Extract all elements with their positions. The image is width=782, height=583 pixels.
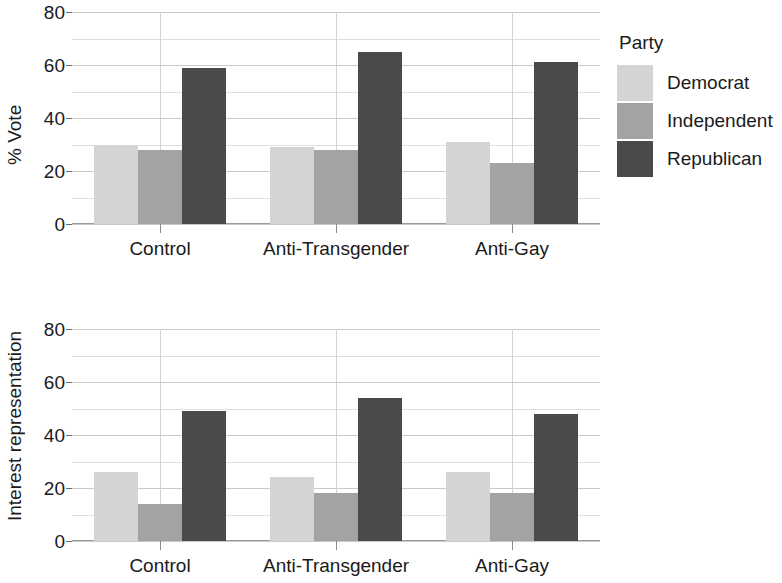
y-tick-label: 80 — [44, 3, 65, 22]
y-tick-mark — [66, 435, 72, 436]
y-tick-label: 40 — [44, 426, 65, 445]
y-tick-label: 0 — [54, 215, 65, 234]
y-tick-label: 0 — [54, 532, 65, 551]
bar-independent-anti-transgender[interactable] — [314, 493, 358, 541]
panel-percent-vote: % Vote 020406080ControlAnti-TransgenderA… — [0, 0, 782, 290]
x-tick-label: Anti-Transgender — [263, 238, 409, 260]
y-tick-mark — [66, 541, 72, 542]
y-tick-label: 20 — [44, 162, 65, 181]
plot-area-vote: 020406080ControlAnti-TransgenderAnti-Gay — [72, 12, 600, 224]
y-axis-title-interest: Interest representation — [4, 331, 26, 521]
legend-swatch-democrat — [617, 65, 653, 101]
bar-independent-control[interactable] — [138, 504, 182, 541]
x-tick-label: Anti-Transgender — [263, 555, 409, 577]
x-tick-mark — [160, 224, 161, 233]
y-tick-mark — [66, 12, 72, 13]
bar-republican-anti-gay[interactable] — [534, 414, 578, 541]
y-tick-label: 40 — [44, 109, 65, 128]
x-tick-mark — [512, 541, 513, 550]
legend-item-republican[interactable]: Republican — [617, 140, 773, 178]
bar-democrat-control[interactable] — [94, 145, 138, 225]
bar-independent-anti-gay[interactable] — [490, 163, 534, 224]
legend-swatch-independent — [617, 103, 653, 139]
x-tick-mark — [160, 541, 161, 550]
plot-area-interest: 020406080ControlAnti-TransgenderAnti-Gay — [72, 329, 600, 541]
bar-independent-anti-gay[interactable] — [490, 493, 534, 541]
x-tick-label: Control — [129, 555, 190, 577]
legend-item-independent[interactable]: Independent — [617, 102, 773, 140]
x-tick-mark — [512, 224, 513, 233]
legend-label-democrat: Democrat — [667, 72, 749, 94]
bar-republican-anti-transgender[interactable] — [358, 398, 402, 541]
y-tick-label: 80 — [44, 320, 65, 339]
x-tick-label: Anti-Gay — [475, 238, 549, 260]
x-tick-label: Control — [129, 238, 190, 260]
y-tick-label: 60 — [44, 373, 65, 392]
bar-democrat-control[interactable] — [94, 472, 138, 541]
x-tick-mark — [336, 541, 337, 550]
bar-democrat-anti-transgender[interactable] — [270, 147, 314, 224]
legend-party-vote: Party Democrat Independent Republican — [617, 32, 773, 178]
bar-republican-control[interactable] — [182, 68, 226, 224]
bar-independent-control[interactable] — [138, 150, 182, 224]
y-tick-mark — [66, 382, 72, 383]
bar-democrat-anti-gay[interactable] — [446, 472, 490, 541]
y-tick-mark — [66, 65, 72, 66]
panel-interest-representation: Interest representation 020406080Control… — [0, 293, 782, 583]
figure-two-panel-bar-charts: % Vote 020406080ControlAnti-TransgenderA… — [0, 0, 782, 583]
bar-democrat-anti-gay[interactable] — [446, 142, 490, 224]
bar-democrat-anti-transgender[interactable] — [270, 477, 314, 541]
y-tick-mark — [66, 171, 72, 172]
bar-republican-anti-gay[interactable] — [534, 62, 578, 224]
y-tick-mark — [66, 118, 72, 119]
bar-republican-anti-transgender[interactable] — [358, 52, 402, 224]
legend-label-independent: Independent — [667, 110, 773, 132]
x-tick-label: Anti-Gay — [475, 555, 549, 577]
y-axis-title-vote: % Vote — [4, 105, 26, 165]
y-tick-mark — [66, 224, 72, 225]
bar-independent-anti-transgender[interactable] — [314, 150, 358, 224]
y-tick-label: 60 — [44, 56, 65, 75]
x-tick-mark — [336, 224, 337, 233]
legend-swatch-republican — [617, 141, 653, 177]
bar-republican-control[interactable] — [182, 411, 226, 541]
legend-label-republican: Republican — [667, 148, 762, 170]
y-tick-label: 20 — [44, 479, 65, 498]
legend-item-democrat[interactable]: Democrat — [617, 64, 773, 102]
y-tick-mark — [66, 488, 72, 489]
legend-title: Party — [619, 32, 773, 54]
y-tick-mark — [66, 329, 72, 330]
